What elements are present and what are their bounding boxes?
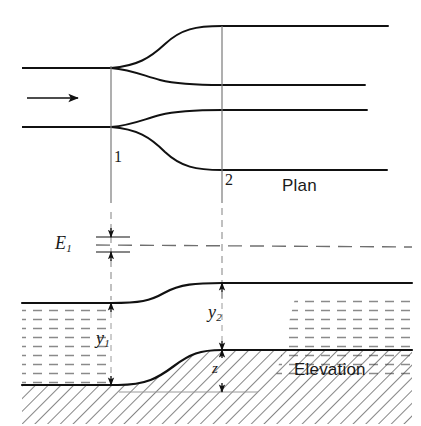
y2-label: y2	[208, 302, 222, 323]
plan-upper-inner-wall	[111, 68, 365, 85]
z-symbol: z	[212, 360, 218, 376]
y1-subscript: 1	[104, 337, 110, 349]
energy-subscript: 1	[66, 242, 72, 254]
section-connector-lines	[111, 208, 222, 300]
y2-subscript: 2	[216, 311, 222, 323]
plan-lower-inner-wall	[111, 110, 367, 127]
y2-symbol: y	[208, 302, 216, 322]
y1-symbol: y	[96, 328, 104, 348]
z-label: z	[212, 360, 218, 377]
plan-lower-outer-wall	[111, 127, 387, 170]
total-energy-line	[96, 245, 412, 247]
y1-label: y1	[96, 328, 110, 349]
energy-symbol: E	[55, 233, 66, 253]
figure-canvas: 1 2 Plan Elevation E1 y1 y2 z	[0, 0, 421, 426]
energy-line-group	[96, 228, 412, 261]
section-2-label: 2	[225, 171, 233, 189]
energy-label: E1	[55, 233, 72, 254]
plan-upper-outer-wall	[111, 26, 388, 68]
section-1-label: 1	[114, 148, 122, 166]
plan-view	[22, 26, 388, 203]
elevation-view-label: Elevation	[294, 360, 366, 380]
plan-view-label: Plan	[282, 176, 317, 196]
